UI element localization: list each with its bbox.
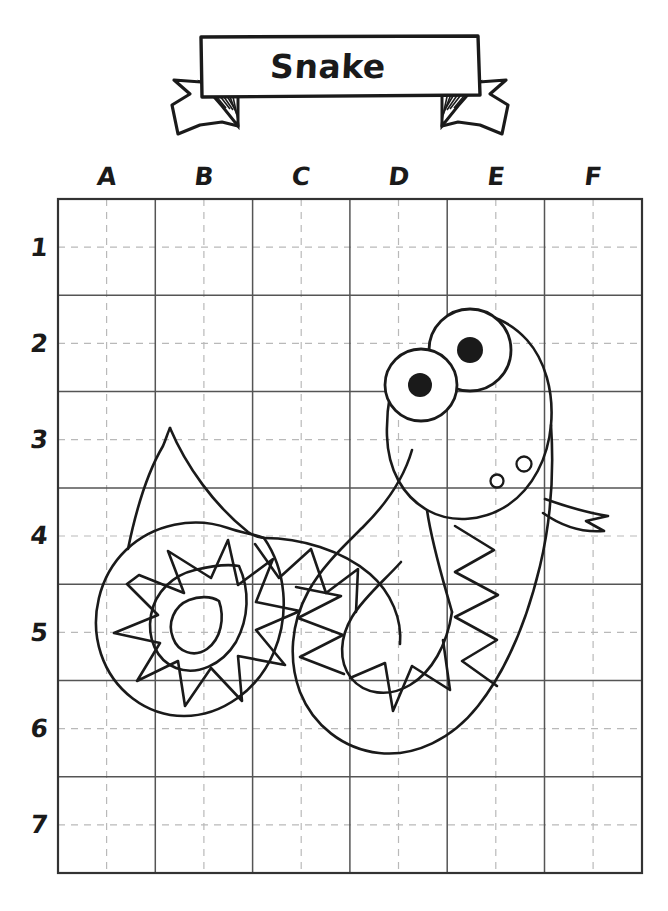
snake-nostril-lower (491, 475, 504, 488)
snake-neck-left (427, 510, 452, 612)
snake-tail-taper-inner (170, 428, 264, 538)
snake-right-pupil (457, 337, 483, 363)
worksheet-page: Snake A B C D E F 1 2 3 4 5 6 7 (0, 0, 668, 911)
snake-tail-coil-inner (150, 565, 246, 670)
snake-zigzag-right (455, 526, 498, 686)
snake-drawing (0, 0, 668, 911)
snake-tongue (543, 499, 608, 531)
snake-left-pupil (408, 373, 432, 397)
snake-tail-star-zigzag (114, 540, 300, 706)
snake-tail-body-link (264, 538, 400, 644)
snake-zigzag-bottom (350, 640, 450, 711)
snake-tail-taper (128, 428, 170, 549)
snake-mid-zigzag (255, 544, 358, 612)
snake-nostril-upper (517, 457, 532, 472)
snake-tail-coil-innermost (171, 597, 222, 653)
snake-tail-coil-outer (96, 523, 284, 716)
